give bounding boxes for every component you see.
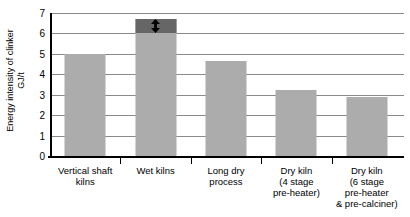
bar-slot xyxy=(191,13,261,156)
y-axis-title-text: Energy intensity of clinker GJ/t xyxy=(5,29,26,132)
x-axis-tick xyxy=(191,158,192,164)
y-axis-title-line-1: Energy intensity of clinker xyxy=(5,29,16,132)
x-axis-category-label-line: Vertical shaft xyxy=(50,165,120,176)
y-axis-tick-label: 1 xyxy=(39,130,45,141)
x-axis-ticks xyxy=(50,158,402,164)
x-axis-category-label: Wet kilns xyxy=(120,165,190,176)
x-axis-tick xyxy=(261,158,262,164)
x-axis-tick xyxy=(120,158,121,164)
x-axis-category-labels: Vertical shaftkilnsWet kilnsLong dryproc… xyxy=(50,165,402,217)
x-axis-category-label-line: Dry kiln xyxy=(332,165,402,176)
bar[interactable] xyxy=(135,19,176,156)
x-axis-category-label-line: (4 stage xyxy=(261,176,331,187)
x-axis-category-label: Dry kiln(4 stagepre-heater) xyxy=(261,165,331,198)
y-axis-tick-label: 6 xyxy=(39,28,45,39)
bars-layer xyxy=(50,13,402,156)
x-axis-category-label: Long dryprocess xyxy=(191,165,261,187)
bar[interactable] xyxy=(276,90,317,156)
y-axis-tick-label: 7 xyxy=(39,8,45,19)
x-axis-category-label-line: Wet kilns xyxy=(120,165,190,176)
bar-chart: Energy intensity of clinker GJ/t 7654321… xyxy=(0,0,410,217)
bar[interactable] xyxy=(346,97,387,156)
y-axis-tick-labels: 76543210 xyxy=(28,13,48,156)
bar-slot xyxy=(261,13,331,156)
bar-slot xyxy=(332,13,402,156)
x-axis-category-label-line: Dry kiln xyxy=(261,165,331,176)
bar-slot xyxy=(50,13,120,156)
x-axis-category-label-line: pre-heater xyxy=(332,187,402,198)
x-axis-category-label-line: Long dry xyxy=(191,165,261,176)
x-axis-category-label-line: (6 stage xyxy=(332,176,402,187)
range-band xyxy=(135,19,176,33)
y-axis-tick-label: 3 xyxy=(39,89,45,100)
y-axis-tick-label: 2 xyxy=(39,110,45,121)
y-axis-tick-label: 4 xyxy=(39,69,45,80)
y-axis-title: Energy intensity of clinker GJ/t xyxy=(0,0,30,160)
bar[interactable] xyxy=(65,54,106,156)
double-headed-vertical-arrow-icon xyxy=(150,19,162,33)
y-axis-title-line-2: GJ/t xyxy=(15,29,26,132)
bar-slot xyxy=(120,13,190,156)
x-axis-category-label-line: kilns xyxy=(50,176,120,187)
y-axis-tick-label: 5 xyxy=(39,48,45,59)
x-axis-category-label-line: process xyxy=(191,176,261,187)
bar[interactable] xyxy=(205,61,246,156)
x-axis-category-label-line: pre-heater) xyxy=(261,187,331,198)
x-axis-tick xyxy=(332,158,333,164)
x-axis-category-label-line: & pre-calciner) xyxy=(332,198,402,209)
x-axis-category-label: Vertical shaftkilns xyxy=(50,165,120,187)
x-axis-category-label: Dry kiln(6 stagepre-heater& pre-calciner… xyxy=(332,165,402,209)
y-axis-tick-label: 0 xyxy=(39,151,45,162)
